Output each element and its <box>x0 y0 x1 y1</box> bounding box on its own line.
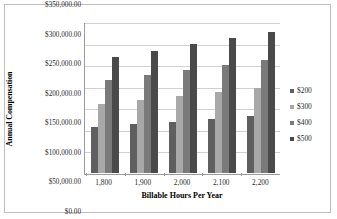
bar-500-2000[interactable] <box>190 44 197 173</box>
x-tick-label: 1,800 <box>84 177 123 189</box>
bars-layer <box>86 23 280 173</box>
y-tick-label: $0.00 <box>17 208 81 216</box>
legend-swatch-icon <box>290 89 294 93</box>
y-tick-label: $150,000.00 <box>17 119 81 127</box>
chart-frame: Annual Compensation $0.00$50,000.00$100,… <box>4 4 331 213</box>
y-tick-label: $350,000.00 <box>17 1 81 9</box>
bar-500-2100[interactable] <box>229 38 236 173</box>
legend-swatch-icon <box>290 121 294 125</box>
y-axis-title: Annual Compensation <box>5 71 14 146</box>
legend-item-500[interactable]: $500 <box>290 131 336 147</box>
legend-label: $500 <box>297 135 312 143</box>
bar-500-1900[interactable] <box>151 51 158 173</box>
bar-group <box>241 23 280 173</box>
legend-item-400[interactable]: $400 <box>290 115 336 131</box>
bar-200-2100[interactable] <box>208 119 215 173</box>
bar-500-1800[interactable] <box>112 57 119 173</box>
bar-group <box>125 23 164 173</box>
bar-group <box>164 23 203 173</box>
legend-label: $400 <box>297 119 312 127</box>
bar-200-2000[interactable] <box>169 122 176 173</box>
legend-item-300[interactable]: $300 <box>290 99 336 115</box>
bar-400-1900[interactable] <box>144 75 151 173</box>
legend-item-200[interactable]: $200 <box>290 83 336 99</box>
bar-300-1900[interactable] <box>137 100 144 173</box>
x-axis-tick-labels: 1,8001,9002,0002,1002,200 <box>84 177 280 189</box>
bar-200-1800[interactable] <box>91 127 98 173</box>
bar-400-2100[interactable] <box>222 65 229 173</box>
bar-300-2000[interactable] <box>176 96 183 173</box>
x-axis-title: Billable Hours Per Year <box>84 191 280 200</box>
legend-label: $200 <box>297 87 312 95</box>
bar-300-2100[interactable] <box>215 92 222 173</box>
bar-400-1800[interactable] <box>105 80 112 173</box>
plot-area <box>84 23 280 175</box>
bar-500-2200[interactable] <box>268 32 275 173</box>
x-tick-mark <box>125 173 126 176</box>
chart-legend: $200$300$400$500 <box>290 83 336 147</box>
x-tick-label: 2,200 <box>241 177 280 189</box>
bar-200-1900[interactable] <box>130 124 137 173</box>
bar-group <box>86 23 125 173</box>
bar-300-1800[interactable] <box>98 104 105 173</box>
legend-swatch-icon <box>290 105 294 109</box>
bar-200-2200[interactable] <box>247 116 254 173</box>
x-tick-mark <box>202 173 203 176</box>
bar-group <box>202 23 241 173</box>
bar-300-2200[interactable] <box>254 88 261 173</box>
y-tick-label: $50,000.00 <box>17 178 81 186</box>
x-tick-mark <box>164 173 165 176</box>
legend-swatch-icon <box>290 137 294 141</box>
y-tick-label: $100,000.00 <box>17 149 81 157</box>
x-tick-label: 1,900 <box>123 177 162 189</box>
x-tick-label: 2,000 <box>162 177 201 189</box>
x-tick-mark <box>86 173 87 176</box>
x-tick-mark <box>241 173 242 176</box>
bar-400-2000[interactable] <box>183 70 190 173</box>
legend-label: $300 <box>297 103 312 111</box>
y-tick-label: $300,000.00 <box>17 31 81 39</box>
y-tick-label: $250,000.00 <box>17 60 81 68</box>
x-tick-label: 2,100 <box>202 177 241 189</box>
bar-400-2200[interactable] <box>261 60 268 173</box>
y-tick-label: $200,000.00 <box>17 90 81 98</box>
y-axis-tick-labels: $0.00$50,000.00$100,000.00$150,000.00$20… <box>17 5 81 212</box>
